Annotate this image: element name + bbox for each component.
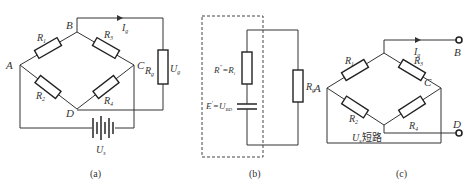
caption-c: (c) [396, 168, 407, 180]
wire-short-circuit [327, 88, 441, 143]
r3-label: R3 [103, 29, 113, 41]
rg-label: Rg [144, 65, 154, 77]
us-short-label: Us短路 [352, 131, 382, 144]
r4-c-label: R4 [408, 120, 418, 132]
e-equiv-label: E′=UBD [205, 100, 232, 112]
current-arrow-c-icon [415, 37, 421, 43]
wire-to-terminal-d [384, 125, 456, 133]
wire-battery-c [115, 65, 134, 128]
ig-label: Ig [121, 22, 128, 34]
node-c-label: C [137, 59, 145, 71]
resistor-rg [158, 50, 168, 84]
node-b-label: B [66, 19, 73, 31]
current-arrow-icon [117, 15, 123, 21]
node-d-c-label: D [452, 118, 461, 130]
node-c-c-label: C [424, 76, 432, 88]
wire-galvanometer-loop [77, 18, 163, 110]
panel-c: A B C D R1 R3 R2 R4 Ig Us短路 (c) [313, 37, 462, 180]
resistor-r4-c [399, 96, 426, 118]
node-b-c-label: B [454, 46, 461, 58]
caption-a: (a) [90, 168, 101, 180]
node-a-c-label: A [313, 82, 321, 94]
thevenin-equivalent-box [202, 16, 263, 157]
r1-label: R1 [36, 32, 46, 44]
circuit-diagram: A B C D R1 R3 R2 R4 Rg Ig Ug Us (a) R′′=… [0, 0, 475, 191]
resistor-rg-b [293, 70, 303, 102]
r4-label: R4 [103, 95, 113, 107]
node-a-label: A [5, 59, 13, 71]
node-d-label: D [65, 107, 74, 119]
caption-b: (b) [249, 168, 261, 180]
r-equiv-label: R′′=Ri [213, 64, 236, 76]
ug-label: Ug [170, 63, 180, 75]
battery-icon [93, 116, 113, 140]
ig-c-label: Ig [413, 46, 420, 58]
r2-c-label: R2 [348, 113, 358, 125]
us-label: Us [96, 144, 106, 156]
panel-b: R′′=Ri E′=UBD Rg (b) [202, 16, 315, 180]
wire-top [247, 30, 298, 70]
r2-label: R2 [35, 90, 45, 102]
resistor-r-equiv [242, 52, 252, 84]
resistor-r3 [92, 38, 119, 59]
r1-c-label: R1 [344, 55, 354, 67]
panel-a: A B C D R1 R3 R2 R4 Rg Ig Ug Us (a) [5, 15, 180, 180]
terminal-b-icon [456, 37, 462, 43]
terminal-d-icon [456, 130, 462, 136]
